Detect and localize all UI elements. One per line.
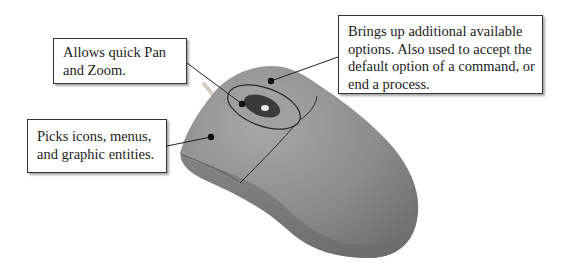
callout-wheel: Allows quick Pan and Zoom. (53, 38, 187, 84)
callout-right-line-1: Brings up additional available (348, 23, 534, 41)
callout-left-line-2: and graphic entities. (37, 146, 158, 164)
mouse-diagram: Allows quick Pan and Zoom. Picks icons, … (0, 0, 575, 269)
cord (204, 84, 214, 96)
callout-right-button: Brings up additional available options. … (338, 15, 543, 94)
pointer-dot-wheel (239, 101, 245, 107)
wheel-highlight (261, 105, 269, 111)
callout-wheel-line-2: and Zoom. (63, 62, 178, 80)
pointer-dot-right (268, 78, 274, 84)
callout-right-line-2: options. Also used to accept the (348, 41, 534, 59)
callout-left-button: Picks icons, menus, and graphic entities… (27, 119, 167, 173)
callout-right-line-3: default option of a command, or (348, 58, 534, 76)
pointer-dot-left (208, 134, 214, 140)
callout-left-line-1: Picks icons, menus, (37, 128, 158, 146)
callout-right-line-4: end a process. (348, 76, 534, 94)
callout-wheel-line-1: Allows quick Pan (63, 44, 178, 62)
